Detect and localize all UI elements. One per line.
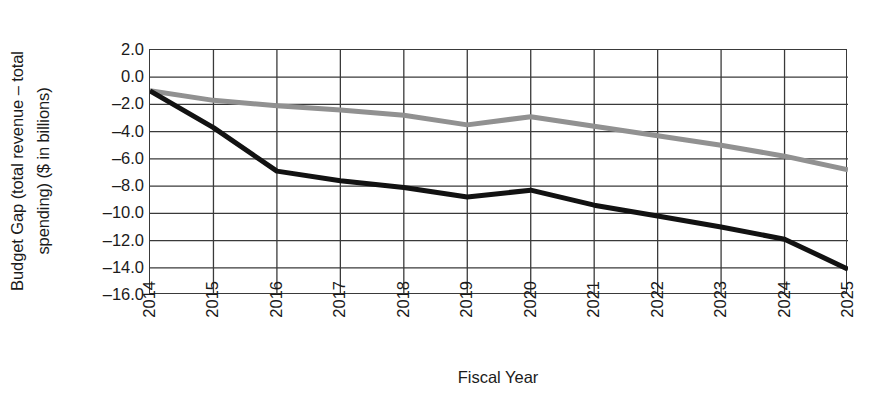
y-tick-label: –12.0	[82, 231, 144, 248]
y-tick-label: 2.0	[82, 41, 144, 58]
y-tick-label: –16.0	[82, 286, 144, 303]
y-tick-label: –14.0	[82, 259, 144, 276]
y-axis-tick-labels: 2.00.0–2.0–4.0–6.0–8.0–10.0–12.0–14.0–16…	[82, 0, 144, 404]
y-tick-label: –4.0	[82, 122, 144, 139]
plot-area	[149, 49, 847, 294]
plot-canvas	[150, 50, 848, 295]
y-axis-title-line-2: spending) ($ in billions)	[30, 21, 56, 321]
budget-gap-line-chart: Budget Gap (total revenue – total spendi…	[0, 0, 872, 404]
data-series-layer	[150, 91, 848, 269]
y-tick-label: 0.0	[82, 68, 144, 85]
x-axis-title: Fiscal Year	[149, 368, 847, 387]
y-axis-title-line-1: Budget Gap (total revenue – total	[4, 21, 30, 321]
y-tick-label: –10.0	[82, 204, 144, 221]
y-tick-label: –6.0	[82, 150, 144, 167]
y-axis-title: Budget Gap (total revenue – total spendi…	[4, 21, 60, 321]
series-line-black-series	[150, 91, 848, 269]
y-tick-label: –2.0	[82, 95, 144, 112]
y-tick-label: –8.0	[82, 177, 144, 194]
